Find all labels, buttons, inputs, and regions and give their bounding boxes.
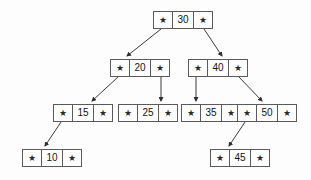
node-right-pointer-cell: ★ [251,150,269,166]
node-value-cell: 20 [129,60,151,76]
node-left-pointer-cell: ★ [154,12,172,28]
node-right-pointer-cell: ★ [151,60,169,76]
node-value-cell: 35 [200,105,222,121]
node-left-pointer-cell: ★ [189,60,207,76]
node-value-cell: 15 [72,105,94,121]
tree-node-15: ★15★ [53,104,113,122]
node-left-pointer-cell: ★ [238,105,256,121]
node-right-pointer-cell: ★ [194,12,212,28]
tree-edge-n30-to-n20 [127,29,161,56]
node-right-pointer-cell: ★ [94,105,112,121]
node-left-pointer-cell: ★ [54,105,72,121]
tree-node-25: ★25★ [118,104,178,122]
node-right-pointer-cell: ★ [159,105,177,121]
node-right-pointer-cell: ★ [278,105,296,121]
node-left-pointer-cell: ★ [182,105,200,121]
tree-edge-n15-to-n10 [45,122,61,146]
tree-edge-n50-to-n45 [229,122,245,146]
tree-node-45: ★45★ [210,149,270,167]
tree-node-35: ★35★ [181,104,241,122]
tree-node-30: ★30★ [153,11,213,29]
node-value-cell: 10 [41,150,63,166]
tree-diagram-canvas: ★30★★20★★40★★15★★25★★35★★50★★10★★45★ [0,0,311,180]
tree-node-40: ★40★ [188,59,248,77]
node-value-cell: 50 [256,105,278,121]
node-value-cell: 45 [229,150,251,166]
node-left-pointer-cell: ★ [111,60,129,76]
node-value-cell: 25 [137,105,159,121]
node-right-pointer-cell: ★ [63,150,81,166]
tree-edge-n30-to-n40 [204,29,222,56]
tree-edge-n40-to-n50 [239,77,262,101]
node-right-pointer-cell: ★ [229,60,247,76]
node-value-cell: 30 [172,12,194,28]
tree-edge-n20-to-n15 [92,77,118,101]
node-value-cell: 40 [207,60,229,76]
tree-node-50: ★50★ [237,104,297,122]
node-left-pointer-cell: ★ [211,150,229,166]
tree-node-10: ★10★ [22,149,82,167]
tree-node-20: ★20★ [110,59,170,77]
node-left-pointer-cell: ★ [23,150,41,166]
node-left-pointer-cell: ★ [119,105,137,121]
